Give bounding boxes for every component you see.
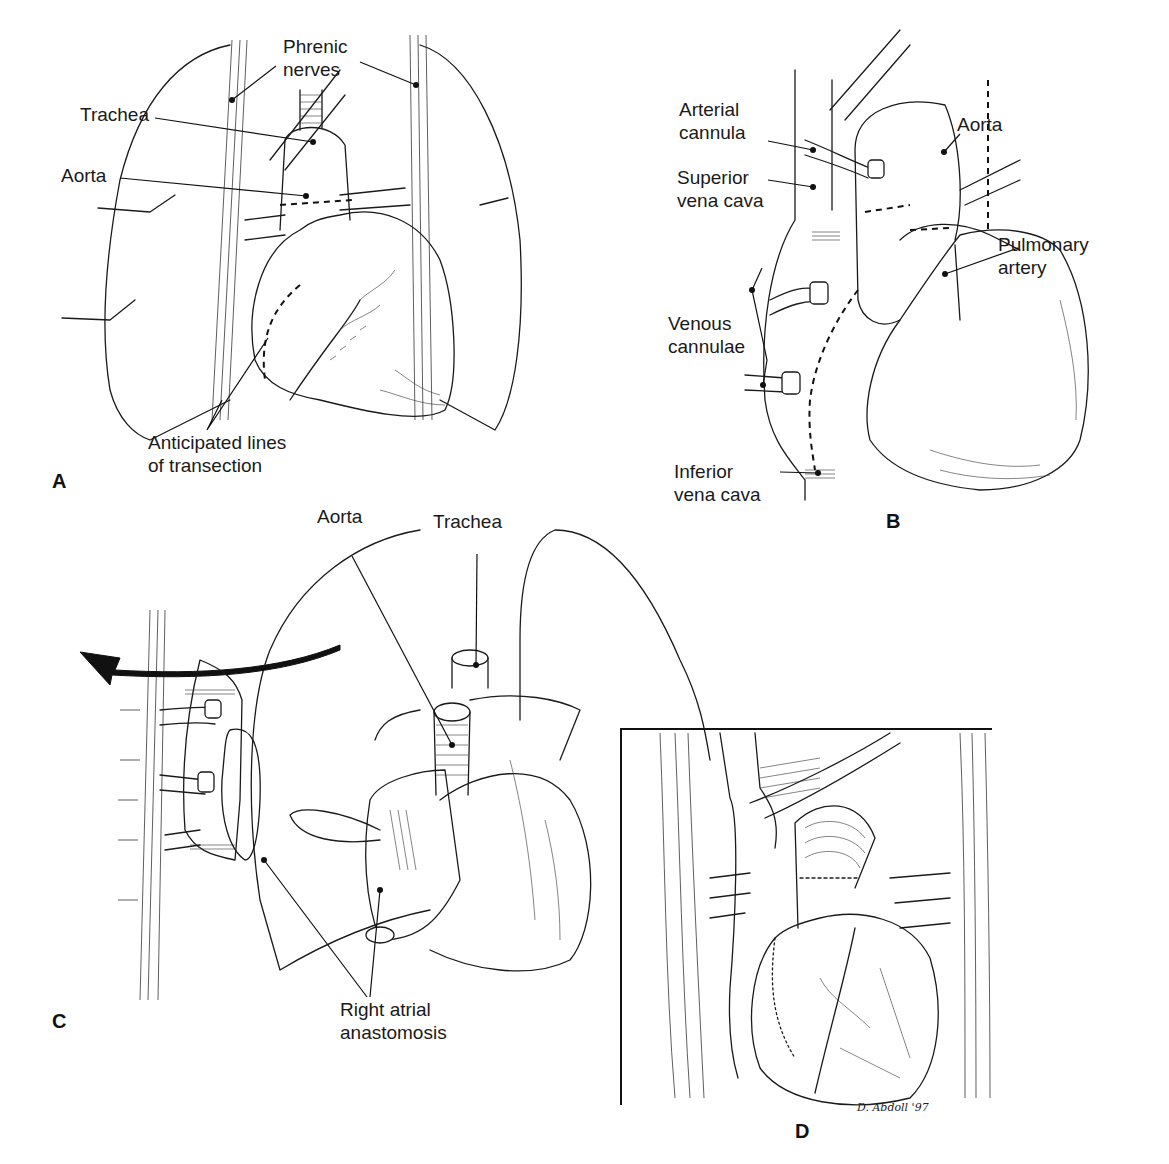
label-venous-cannulae: Venous cannulae bbox=[668, 312, 745, 358]
label-arterial-cannula: Arterial cannula bbox=[679, 98, 746, 144]
panel-letter-d: D bbox=[795, 1120, 809, 1143]
panel-letter-c: C bbox=[52, 1010, 66, 1033]
label-trachea: Trachea bbox=[80, 103, 149, 126]
panel-letter-b: B bbox=[886, 510, 900, 533]
panel-d: D. Abdoll '97 D bbox=[620, 728, 1169, 1164]
label-phrenic-nerves: Phrenic nerves bbox=[283, 35, 347, 81]
artist-signature: D. Abdoll '97 bbox=[857, 1101, 929, 1114]
label-trachea-c: Trachea bbox=[433, 510, 502, 533]
panel-d-illustration bbox=[620, 728, 1169, 1164]
label-aorta-c: Aorta bbox=[317, 505, 362, 528]
label-anticipated-lines-of-transection: Anticipated lines of transection bbox=[148, 431, 286, 477]
label-aorta: Aorta bbox=[61, 164, 106, 187]
label-right-atrial-anastomosis: Right atrial anastomosis bbox=[340, 998, 447, 1044]
panel-c: Aorta Trachea Right atrial anastomosis C bbox=[0, 500, 720, 1060]
panel-a-illustration bbox=[0, 0, 560, 500]
panel-b: Arterial cannula Superior vena cava Aort… bbox=[600, 0, 1169, 540]
label-superior-vena-cava: Superior vena cava bbox=[677, 166, 764, 212]
label-pulmonary-artery: Pulmonary artery bbox=[998, 233, 1089, 279]
panel-a: Phrenic nerves Trachea Aorta Anticipated… bbox=[0, 0, 560, 500]
panel-c-illustration bbox=[0, 500, 720, 1060]
panel-letter-a: A bbox=[52, 470, 66, 493]
label-aorta-b: Aorta bbox=[957, 113, 1002, 136]
